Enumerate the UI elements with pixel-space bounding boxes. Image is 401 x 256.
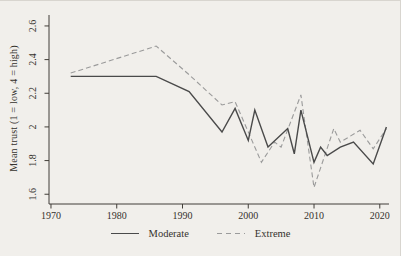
trust-trend-figure: 1970198019902000201020201.61.822.22.42.6… [0,0,401,256]
y-tick-label-2.4: 2.4 [27,53,38,66]
y-tick-label-1.8: 1.8 [27,154,38,167]
legend-extreme-line-sample [217,233,245,234]
y-tick-label-1.6: 1.6 [27,188,38,201]
legend-extreme-label: Extreme [255,228,291,239]
series-line-moderate [71,76,387,163]
legend-moderate-label: Moderate [149,228,189,239]
legend: Moderate Extreme [0,228,401,239]
x-tick-label-1980: 1980 [107,210,127,221]
x-tick-label-2000: 2000 [238,210,258,221]
line-chart: 1970198019902000201020201.61.822.22.42.6 [0,1,401,256]
x-tick-label-1990: 1990 [173,210,193,221]
x-tick-label-2020: 2020 [370,210,390,221]
y-tick-label-2: 2 [27,124,38,129]
y-axis-title: Mean trust (1 = low, 4 = high) [7,9,20,209]
legend-moderate-line-sample [111,233,139,234]
x-tick-label-2010: 2010 [304,210,324,221]
x-tick-label-1970: 1970 [41,210,61,221]
series-line-extreme [71,46,387,187]
y-tick-label-2.6: 2.6 [27,20,38,32]
y-tick-label-2.2: 2.2 [27,87,38,100]
axes [49,15,389,204]
